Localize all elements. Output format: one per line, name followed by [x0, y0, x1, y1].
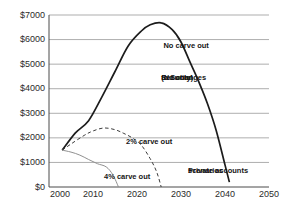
x-tick-label-2040: 2040 — [210, 189, 240, 200]
social-security-scenarios-chart: $0$1000$2000$3000$4000$5000$6000$7000200… — [0, 0, 290, 215]
y-tick-label-3000: $3000 — [0, 108, 45, 119]
four-percent-carve-out-label-line: 4% carve out — [104, 172, 150, 182]
no-changes-note-line: Security) — [161, 73, 193, 83]
x-tick-label-2030: 2030 — [166, 189, 196, 200]
private-accounts-label-line: scenarios — [188, 166, 223, 176]
y-tick-label-0: $0 — [0, 182, 45, 193]
y-tick-label-2000: $2000 — [0, 132, 45, 143]
y-tick-label-5000: $5000 — [0, 59, 45, 70]
x-tick-label-2010: 2010 — [78, 189, 108, 200]
y-tick-label-7000: $7000 — [0, 10, 45, 21]
x-tick-label-2050: 2050 — [254, 189, 284, 200]
y-tick-label-4000: $4000 — [0, 83, 45, 94]
y-tick-label-1000: $1000 — [0, 157, 45, 168]
x-tick-label-2000: 2000 — [45, 189, 75, 200]
no-carve-out-label-line: No carve out — [163, 41, 208, 51]
x-tick-label-2020: 2020 — [122, 189, 152, 200]
two-percent-carve-out-label-line: 2% carve out — [126, 137, 172, 147]
y-tick-label-6000: $6000 — [0, 34, 45, 45]
